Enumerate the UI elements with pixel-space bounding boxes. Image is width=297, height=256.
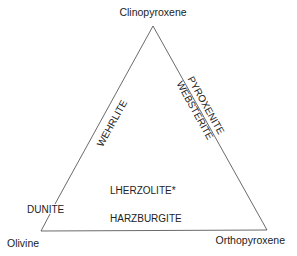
vertex-label-orthopyroxene: Orthopyroxene xyxy=(216,234,286,246)
edge-olivine-clinopyroxene xyxy=(41,214,50,231)
ternary-diagram: Clinopyroxene Olivine Orthopyroxene DUNI… xyxy=(0,0,297,256)
vertex-label-olivine: Olivine xyxy=(7,237,39,249)
field-label-harzburgite: HARZBURGITE xyxy=(110,213,182,224)
field-label-dunite: DUNITE xyxy=(27,204,65,215)
field-label-lherzolite: LHERZOLITE* xyxy=(110,185,176,196)
edge-olivine-orthopyroxene xyxy=(41,230,267,231)
edge-olivine-clinopyroxene-upper xyxy=(55,26,153,204)
vertex-label-clinopyroxene: Clinopyroxene xyxy=(119,6,186,18)
